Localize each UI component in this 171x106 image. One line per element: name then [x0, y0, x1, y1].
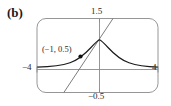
tangency-point-marker	[78, 54, 82, 58]
point-annotation-label: (−1, 0.5)	[42, 45, 72, 54]
viewing-window-frame	[37, 19, 158, 93]
x-min-label: −4	[22, 63, 32, 72]
figure-screenshot: (b) 1.5 −0.5 −4 4	[0, 0, 171, 106]
x-max-label: 4	[152, 63, 157, 72]
y-min-label: −0.5	[88, 92, 104, 101]
graph-plot-area	[0, 0, 171, 106]
y-max-label: 1.5	[91, 7, 102, 16]
